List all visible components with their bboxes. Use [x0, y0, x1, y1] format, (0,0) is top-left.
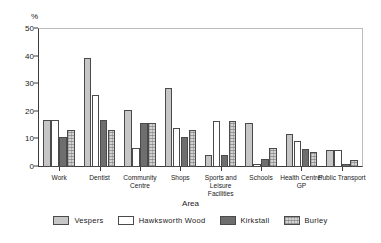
bar-chart: % 01020304050 WorkDentistCommunity Centr…	[0, 0, 381, 243]
bar	[181, 137, 188, 167]
legend-label: Burley	[305, 216, 328, 225]
legend-label: Kirkstall	[241, 216, 270, 225]
x-axis-labels: WorkDentistCommunity CentreShopsSports a…	[39, 174, 362, 200]
x-axis-title: Area	[0, 199, 381, 208]
y-tick-label-30: 30	[16, 79, 34, 88]
bar-group	[124, 29, 155, 167]
y-tick-label-0: 0	[16, 162, 34, 171]
bar	[124, 110, 131, 167]
legend-swatch-icon	[220, 216, 236, 225]
legend-label: Hawksworth Wood	[139, 216, 206, 225]
bar	[189, 130, 196, 167]
bar	[132, 148, 139, 167]
bar-group	[286, 29, 317, 167]
bar-group	[245, 29, 276, 167]
x-tick-label: Public Transport	[318, 174, 366, 182]
y-tick-label-10: 10	[16, 134, 34, 143]
bar	[334, 150, 341, 167]
y-axis-ticks: 01020304050	[12, 28, 34, 167]
bar	[310, 152, 317, 167]
legend-item[interactable]: Burley	[284, 216, 328, 225]
bar	[261, 159, 268, 167]
x-tick-mark	[221, 167, 222, 171]
bar	[59, 137, 66, 167]
x-tick-mark	[59, 167, 60, 171]
bar	[229, 121, 236, 167]
bar-group	[326, 29, 357, 167]
bar	[165, 88, 172, 167]
bar	[84, 58, 91, 167]
x-tick-mark	[342, 167, 343, 171]
bar	[205, 155, 212, 167]
bar-group	[165, 29, 196, 167]
legend-swatch-icon	[118, 216, 134, 225]
bar-group	[43, 29, 74, 167]
bar	[43, 120, 50, 167]
x-axis-ticks	[39, 167, 362, 173]
legend-swatch-icon	[53, 216, 69, 225]
bar	[269, 148, 276, 167]
bar	[92, 95, 99, 167]
x-tick-mark	[180, 167, 181, 171]
x-tick-mark	[301, 167, 302, 171]
bar	[245, 123, 252, 167]
legend-item[interactable]: Hawksworth Wood	[118, 216, 206, 225]
bar	[294, 141, 301, 167]
bar	[100, 120, 107, 167]
bar	[286, 134, 293, 167]
bar	[350, 160, 357, 167]
legend-swatch-icon	[284, 216, 300, 225]
bar	[140, 123, 147, 167]
bar	[173, 128, 180, 167]
bar-group	[205, 29, 236, 167]
bar	[221, 155, 228, 167]
bar	[326, 150, 333, 167]
bar	[213, 121, 220, 167]
bar	[108, 130, 115, 167]
bar	[51, 120, 58, 167]
bars-layer	[39, 29, 362, 167]
bar	[302, 149, 309, 167]
legend-item[interactable]: Vespers	[53, 216, 103, 225]
x-tick-mark	[261, 167, 262, 171]
x-tick-mark	[140, 167, 141, 171]
y-tick-label-40: 40	[16, 51, 34, 60]
bar	[67, 130, 74, 167]
x-tick-mark	[100, 167, 101, 171]
chart-legend: VespersHawksworth WoodKirkstallBurley	[0, 216, 381, 225]
y-axis-unit-label: %	[31, 12, 38, 21]
y-tick-label-20: 20	[16, 106, 34, 115]
legend-item[interactable]: Kirkstall	[220, 216, 270, 225]
legend-label: Vespers	[74, 216, 103, 225]
y-tick-label-50: 50	[16, 24, 34, 33]
bar	[148, 123, 155, 167]
bar-group	[84, 29, 115, 167]
